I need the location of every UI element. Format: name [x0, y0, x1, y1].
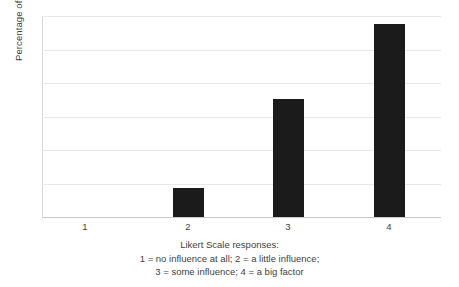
caption-line-2: 1 = no influence at all; 2 = a little in…	[0, 252, 459, 266]
y-axis-title: Percentage of students	[13, 0, 27, 61]
x-tick-label-3: 3	[268, 221, 308, 232]
bar[interactable]	[374, 24, 405, 217]
x-axis-line	[42, 217, 441, 218]
bar[interactable]	[173, 188, 204, 217]
caption-line-1: Likert Scale responses:	[0, 238, 459, 252]
x-tick-label-1: 1	[65, 221, 105, 232]
x-tick-label-4: 4	[369, 221, 409, 232]
bar[interactable]	[273, 99, 304, 217]
x-tick-label-2: 2	[168, 221, 208, 232]
gridline	[42, 16, 441, 17]
chart-caption: Likert Scale responses: 1 = no influence…	[0, 238, 459, 279]
plot-area	[42, 16, 441, 217]
caption-line-3: 3 = some influence; 4 = a big factor	[0, 265, 459, 279]
bar-chart-figure: Percentage of students 1234 Likert Scale…	[0, 0, 459, 287]
